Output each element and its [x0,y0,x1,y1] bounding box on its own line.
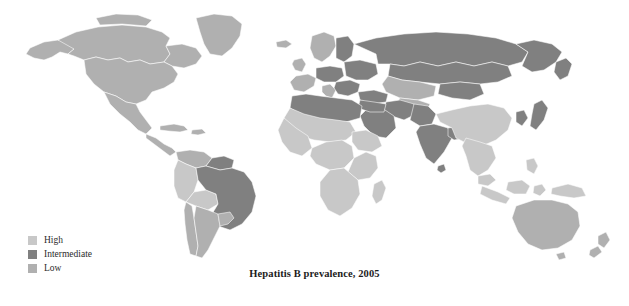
region-united-states [84,57,178,104]
figure-note [8,297,621,306]
region-new-zealand-south [589,246,602,258]
region-iceland [276,40,292,48]
region-central-america [146,134,176,156]
figure-caption: Hepatitis B prevalence, 2005 [0,268,629,279]
legend-item-high: High [28,234,148,247]
region-hispaniola [191,129,206,135]
region-new-zealand [598,232,610,248]
region-cuba-caribbean [160,124,188,132]
region-ukraine-belarus [344,60,378,80]
region-madagascar [372,180,386,204]
region-argentina [194,206,220,258]
region-india [416,124,452,164]
region-central-africa [310,140,354,170]
region-scandinavia [310,32,336,62]
region-korea [516,110,528,126]
region-tasmania [556,252,566,260]
region-indonesia-borneo [506,180,530,194]
region-indonesia-sulawesi [533,184,546,196]
region-germany-poland [316,66,344,82]
legend-label-high: High [44,236,63,246]
region-canada [58,25,170,64]
region-finland-baltics [336,36,354,62]
region-indonesia-sumatra [480,186,510,204]
region-sri-lanka [437,164,446,173]
region-russia [354,32,528,66]
region-france-iberia [290,74,316,92]
figure-container: High Intermediate Low Hepatitis B preval… [0,0,629,306]
region-myanmar-thailand-vietnam [462,138,496,176]
legend-swatch-high [28,236,37,245]
region-malaysia [478,174,496,186]
region-afghanistan-pakistan [410,104,436,126]
region-balkans [334,80,360,96]
region-philippines [526,158,538,174]
region-australia [512,200,580,250]
region-italy [322,84,336,98]
region-canada-east [164,44,202,68]
region-canada-arctic-islands [96,14,152,26]
region-new-guinea [551,184,586,198]
legend-swatch-intermediate [28,250,37,259]
region-mongolia [438,82,484,100]
region-japan [530,100,548,130]
region-british-isles [292,58,306,72]
legend-item-intermediate: Intermediate [28,248,148,261]
region-greenland [196,14,242,56]
legend-label-intermediate: Intermediate [44,250,92,260]
